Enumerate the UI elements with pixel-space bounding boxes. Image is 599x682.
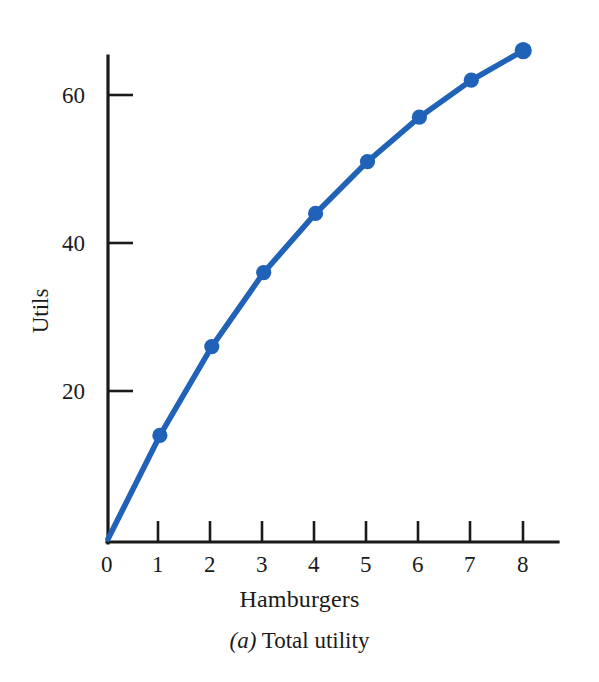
data-point-8	[515, 42, 532, 59]
x-tick-label-1: 1	[152, 553, 164, 576]
figure-caption: (a) Total utility	[0, 628, 599, 654]
x-tick-label-0: 0	[101, 553, 113, 576]
chart-canvas: Utils	[0, 0, 599, 682]
x-tick-label-4: 4	[308, 553, 320, 576]
data-point-7	[464, 73, 479, 88]
x-tick-label-5: 5	[360, 553, 372, 576]
data-point-3	[256, 265, 271, 280]
total-utility-curve	[108, 51, 523, 539]
x-tick-label-6: 6	[412, 553, 424, 576]
y-tick-label-60: 60	[62, 84, 85, 107]
x-tick-label-7: 7	[464, 553, 476, 576]
x-tick-label-8: 8	[517, 553, 529, 576]
x-tick-label-2: 2	[204, 553, 216, 576]
data-point-2	[204, 339, 219, 354]
x-axis-title: Hamburgers	[0, 586, 599, 613]
x-tick-label-3: 3	[256, 553, 268, 576]
data-point-1	[152, 428, 167, 443]
total-utility-figure: Utils 60 40 20 0 1 2 3 4 5 6 7 8 Hamburg…	[0, 0, 599, 682]
figure-caption-letter: (a)	[230, 628, 257, 653]
figure-caption-text: Total utility	[256, 628, 369, 653]
y-tick-label-40: 40	[62, 232, 85, 255]
data-point-4	[308, 206, 323, 221]
y-axis-title: Utils	[28, 289, 53, 334]
y-tick-label-20: 20	[62, 380, 85, 403]
data-point-5	[360, 154, 375, 169]
data-point-markers	[152, 42, 532, 443]
data-point-6	[412, 110, 427, 125]
